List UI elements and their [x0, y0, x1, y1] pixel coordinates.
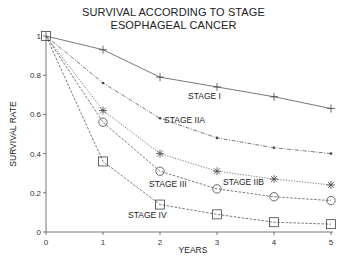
x-tick-label: 2 [158, 238, 163, 247]
label-stage-2a: STAGE IIA [164, 115, 205, 125]
plus-marker-icon [327, 105, 335, 113]
asterisk-marker-icon [327, 181, 335, 189]
x-tick-label: 0 [44, 238, 49, 247]
y-tick-label: 0.8 [30, 71, 42, 80]
plus-marker-icon [213, 83, 221, 91]
series-line-stage-iv [46, 36, 331, 224]
plus-marker-icon [99, 46, 107, 54]
y-tick-label: 1 [37, 32, 42, 41]
asterisk-marker-icon [99, 106, 107, 114]
asterisk-marker-icon [213, 167, 221, 175]
label-stage-2b: STAGE IIB [223, 177, 264, 187]
circle-marker-icon [270, 193, 278, 201]
series-markers [42, 32, 336, 229]
asterisk-marker-icon [156, 150, 164, 158]
circle-marker-icon [99, 118, 107, 126]
y-tick-label: 0.2 [30, 189, 42, 198]
label-stage-4: STAGE IV [128, 210, 167, 220]
circle-marker-icon [156, 167, 164, 175]
label-stage-3: STAGE III [149, 179, 187, 189]
series-lines [46, 36, 331, 224]
x-tick-label: 5 [329, 238, 334, 247]
y-tick-label: 0.6 [30, 110, 42, 119]
x-tick-label: 4 [272, 238, 277, 247]
dot-marker-icon [159, 117, 162, 120]
y-axis-label: SURVIVAL RATE [8, 101, 18, 167]
y-tick-label: 0 [37, 228, 42, 237]
survival-chart: 00.20.40.60.81012345 YEARS SURVIVAL RATE… [0, 0, 347, 270]
x-tick-label: 1 [101, 238, 106, 247]
asterisk-marker-icon [270, 175, 278, 183]
dot-marker-icon [273, 146, 276, 149]
y-tick-label: 0.4 [30, 150, 42, 159]
plus-marker-icon [270, 93, 278, 101]
label-stage-1: STAGE I [188, 91, 221, 101]
dot-marker-icon [216, 137, 219, 140]
x-tick-label: 3 [215, 238, 220, 247]
square-marker-icon [213, 210, 222, 219]
x-axis-label: YEARS [179, 245, 208, 255]
plus-marker-icon [156, 73, 164, 81]
series-line-stage-iib [46, 36, 331, 185]
dot-marker-icon [330, 152, 333, 155]
dot-marker-icon [102, 82, 105, 85]
axes: 00.20.40.60.81012345 [30, 32, 334, 247]
